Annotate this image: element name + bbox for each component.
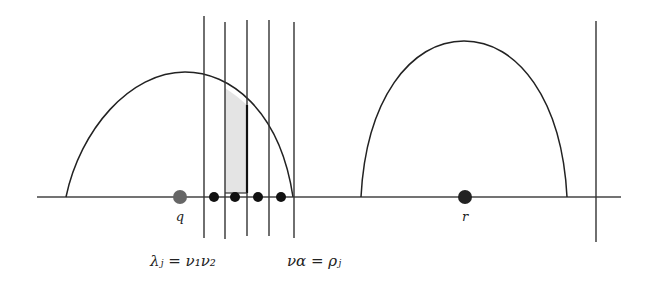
point-r xyxy=(458,190,472,204)
left-arch-curve xyxy=(66,72,293,197)
label-q: q xyxy=(176,209,184,224)
point-1 xyxy=(209,192,219,202)
point-4 xyxy=(276,192,286,202)
equation-nu: να = ρⱼ xyxy=(287,252,341,270)
point-q xyxy=(173,190,187,204)
diagram-canvas: q r λⱼ = ν₁ν₂ να = ρⱼ xyxy=(0,0,647,294)
label-r: r xyxy=(462,209,469,224)
shaded-region xyxy=(225,88,247,193)
point-3 xyxy=(253,192,263,202)
point-2 xyxy=(230,192,240,202)
equation-lambda: λⱼ = ν₁ν₂ xyxy=(149,252,216,270)
right-arch-curve xyxy=(361,41,567,197)
